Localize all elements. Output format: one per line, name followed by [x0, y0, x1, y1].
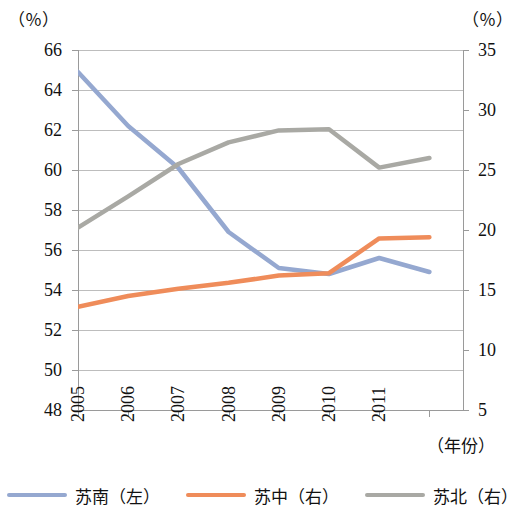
series-layer — [78, 50, 463, 410]
left-tick-label: 58 — [22, 201, 62, 219]
left-tick-label: 64 — [22, 81, 62, 99]
right-tick-label: 30 — [478, 101, 518, 119]
x-tick-label: 2011 — [370, 387, 388, 422]
left-tick-label: 60 — [22, 161, 62, 179]
legend-swatch — [365, 493, 425, 497]
left-tick-label: 48 — [22, 401, 62, 419]
right-axis-line — [463, 50, 464, 410]
left-tick-label: 50 — [22, 361, 62, 379]
right-tick-label: 20 — [478, 221, 518, 239]
right-tick-label: 35 — [478, 41, 518, 59]
right-tick-label: 15 — [478, 281, 518, 299]
left-axis-unit-label: （％） — [8, 6, 59, 31]
right-tick-mark — [463, 410, 469, 411]
x-tick-label: 2006 — [119, 386, 137, 422]
x-axis-title: （年份） — [427, 432, 495, 457]
x-tick-label: 2008 — [220, 386, 238, 422]
series-line — [78, 129, 429, 227]
legend-swatch — [186, 493, 246, 497]
legend-item[interactable]: 苏中（右） — [186, 483, 339, 508]
x-tick-label: 2009 — [270, 386, 288, 422]
line-chart: （％） （％） 66646260585654525048 35302520151… — [0, 0, 524, 509]
plot-area — [78, 50, 463, 410]
left-tick-label: 66 — [22, 41, 62, 59]
chart-legend: 苏南（左）苏中（右）苏北（右） — [0, 481, 524, 509]
left-tick-label: 62 — [22, 121, 62, 139]
legend-item[interactable]: 苏北（右） — [365, 483, 518, 508]
legend-item[interactable]: 苏南（左） — [7, 483, 160, 508]
x-tick-label: 2010 — [320, 386, 338, 422]
left-tick-label: 54 — [22, 281, 62, 299]
right-axis-unit-label: （％） — [462, 6, 513, 31]
right-tick-label: 25 — [478, 161, 518, 179]
right-tick-label: 5 — [478, 401, 518, 419]
legend-label: 苏中（右） — [254, 483, 339, 508]
series-line — [78, 72, 429, 274]
right-tick-label: 10 — [478, 341, 518, 359]
legend-label: 苏北（右） — [433, 483, 518, 508]
left-tick-label: 56 — [22, 241, 62, 259]
legend-label: 苏南（左） — [75, 483, 160, 508]
x-tick-mark — [429, 410, 430, 417]
x-tick-label: 2007 — [169, 386, 187, 422]
x-tick-label: 2005 — [69, 386, 87, 422]
left-tick-label: 52 — [22, 321, 62, 339]
legend-swatch — [7, 493, 67, 497]
